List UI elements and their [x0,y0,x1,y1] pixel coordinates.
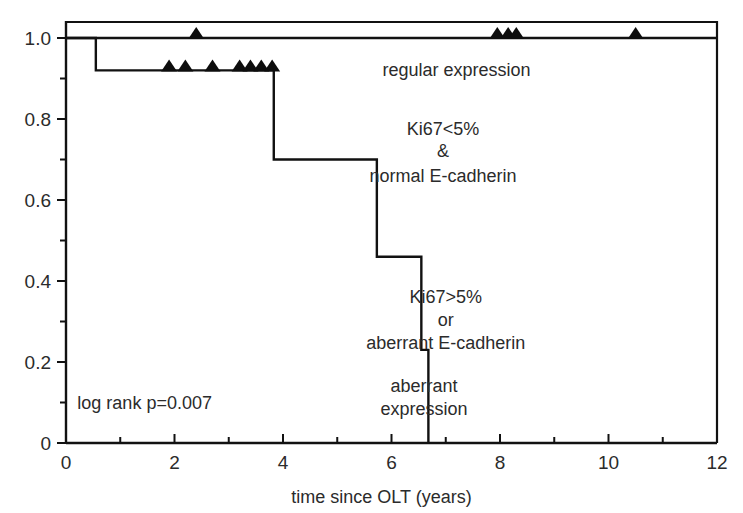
chart-background [0,0,743,513]
y-tick-label: 0.4 [25,271,52,292]
y-tick-label: 0.2 [25,352,51,373]
x-tick-label: 10 [598,452,619,473]
chart-canvas: 024681012 00.20.40.60.81.0 regular expre… [0,0,743,513]
annotation-upper-criteria-line2: & [437,141,449,161]
x-axis-title: time since OLT (years) [291,487,471,507]
annotation-lower-group-name-line2: expression [381,399,468,419]
y-tick-label: 1.0 [25,28,51,49]
annotation-statistic: log rank p=0.007 [77,393,212,413]
annotation-lower-criteria-line3: aberrant E-cadherin [366,333,525,353]
x-tick-label: 8 [495,452,506,473]
annotation-lower-criteria-line2: or [438,310,454,330]
annotation-upper-criteria-line1: Ki67<5% [407,119,480,139]
x-tick-label: 12 [706,452,727,473]
x-tick-label: 2 [169,452,180,473]
y-tick-label: 0.8 [25,109,51,130]
annotation-upper-group-name: regular expression [383,60,531,80]
kaplan-meier-chart: 024681012 00.20.40.60.81.0 regular expre… [0,0,743,513]
y-tick-label: 0.6 [25,190,51,211]
x-tick-label: 0 [61,452,72,473]
annotation-lower-group-name-line1: aberrant [391,376,458,396]
annotation-upper-criteria-line3: normal E-cadherin [369,166,516,186]
x-tick-label: 4 [278,452,289,473]
y-tick-label: 0 [40,433,51,454]
x-tick-label: 6 [386,452,397,473]
annotation-lower-criteria-line1: Ki67>5% [409,287,482,307]
